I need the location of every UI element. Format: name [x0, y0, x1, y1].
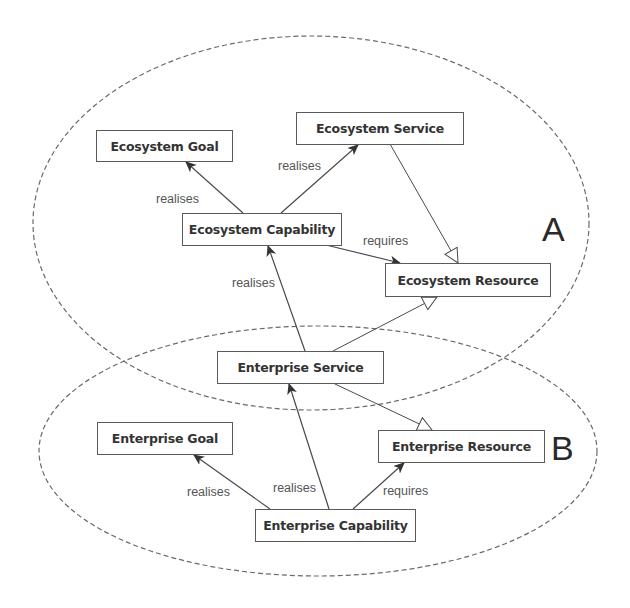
edge-label-eco-cap-service: realises — [278, 159, 321, 173]
region-label-b: B — [551, 431, 574, 465]
node-label: Ecosystem Capability — [189, 222, 335, 237]
node-label: Enterprise Service — [237, 360, 363, 375]
edge-eco-cap-to-eco-service — [281, 145, 358, 213]
edge-ent-cap-to-ent-goal — [194, 455, 270, 509]
node-label: Enterprise Goal — [112, 431, 218, 446]
node-enterprise-goal: Enterprise Goal — [97, 422, 233, 455]
edge-ent-service-to-eco-cap — [268, 246, 305, 351]
node-label: Ecosystem Resource — [398, 273, 539, 288]
edge-ent-service-to-eco-resource — [333, 297, 437, 351]
edge-label-ent-cap-goal: realises — [187, 485, 230, 499]
edge-ent-service-to-ent-resource — [333, 383, 432, 430]
node-enterprise-capability: Enterprise Capability — [255, 509, 416, 542]
edge-label-eco-cap-resource: requires — [363, 234, 408, 248]
node-label: Enterprise Resource — [392, 439, 531, 454]
diagram-canvas: Ecosystem Goal Ecosystem Service Ecosyst… — [0, 0, 630, 608]
node-ecosystem-resource: Ecosystem Resource — [385, 263, 551, 297]
node-ecosystem-service: Ecosystem Service — [296, 112, 464, 145]
node-ecosystem-goal: Ecosystem Goal — [96, 130, 233, 162]
edge-label-ent-cap-resource: requires — [383, 484, 428, 498]
edge-label-ent-service-eco-cap: realises — [232, 276, 275, 290]
node-label: Ecosystem Service — [316, 121, 444, 136]
node-label: Ecosystem Goal — [110, 139, 218, 154]
node-label: Enterprise Capability — [263, 518, 407, 533]
node-enterprise-resource: Enterprise Resource — [378, 430, 545, 463]
edge-label-eco-cap-goal: realises — [156, 192, 199, 206]
node-ecosystem-capability: Ecosystem Capability — [182, 213, 342, 246]
region-label-a: A — [542, 212, 565, 246]
edge-label-ent-cap-service: realises — [273, 481, 316, 495]
node-enterprise-service: Enterprise Service — [217, 351, 384, 384]
